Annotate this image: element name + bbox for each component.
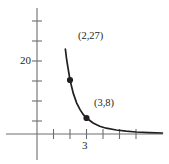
data-point-label-3-8: (3,8) <box>94 98 114 109</box>
data-point-label-2-27: (2,27) <box>78 31 103 42</box>
x-axis-tick-label-3: 3 <box>82 140 88 151</box>
data-point-marker-2 <box>83 115 89 121</box>
y-axis-tick-label-20: 20 <box>20 55 31 66</box>
exponential-decay-chart: 20 3 (2,27) (3,8) <box>0 0 169 164</box>
data-point-marker-1 <box>67 77 73 83</box>
decay-curve <box>65 49 162 133</box>
